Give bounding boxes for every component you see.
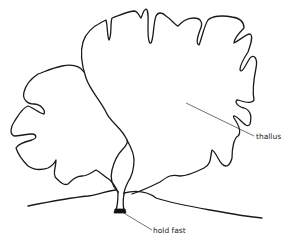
substrate-line [28, 190, 262, 218]
holdfast-shape [114, 209, 126, 213]
thallus-label: thallus [256, 133, 281, 141]
holdfast-label: hold fast [153, 227, 186, 235]
seaweed-diagram: thallus hold fast [0, 0, 289, 242]
holdfast-leader-line [122, 212, 152, 230]
thallus-right-lobe [82, 9, 257, 194]
thallus-left-lobe [11, 65, 118, 192]
stipe [116, 192, 124, 210]
seaweed-illustration [0, 0, 289, 242]
